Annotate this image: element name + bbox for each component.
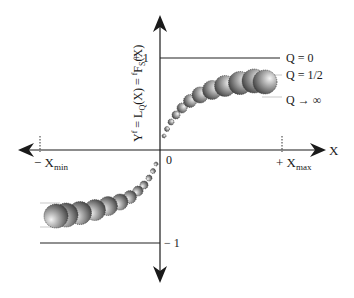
y-label-main: Y bbox=[131, 133, 145, 142]
x-max-label: + Xmax bbox=[276, 155, 312, 172]
y-axis-label: Yf = LQ(X) = fFS(X) bbox=[130, 45, 147, 142]
x-max-prefix: + X bbox=[276, 155, 297, 170]
origin-label: 0 bbox=[166, 153, 172, 167]
upper-sigmoid-band bbox=[162, 69, 277, 138]
x-min-label: − Xmin bbox=[34, 155, 68, 172]
x-axis-label: X bbox=[329, 143, 339, 158]
curve-label-q0: Q = 0 bbox=[286, 51, 313, 65]
y-label-eq2: (X) = bbox=[131, 75, 145, 104]
sigmoid-diagram: + 1 − 1 0 X − Xmin + Xmax Q = 0 Q = 1/2 … bbox=[0, 0, 354, 298]
curve-label-qhalf: Q = 1/2 bbox=[286, 68, 323, 82]
x-max-sub: max bbox=[296, 162, 312, 172]
y-label-end: (X) bbox=[131, 45, 145, 62]
y-label-eq1: = L bbox=[131, 111, 145, 131]
x-min-sub: min bbox=[54, 162, 69, 172]
y-minus-one-label: − 1 bbox=[164, 236, 180, 250]
curve-label-qinf: Q → ∞ bbox=[286, 93, 321, 107]
x-min-prefix: − X bbox=[34, 155, 55, 170]
